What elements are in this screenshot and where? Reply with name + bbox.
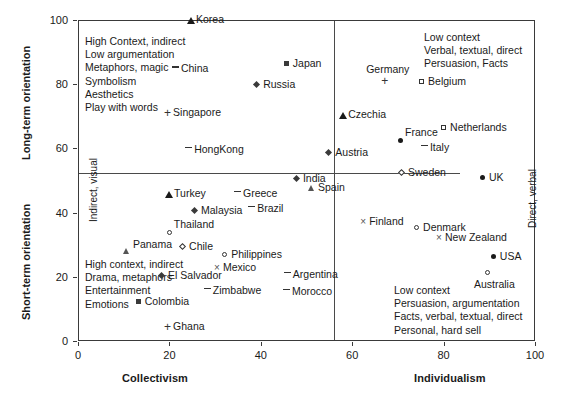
x-tickmark xyxy=(535,342,536,346)
inner-note-direct-verbal: Direct, verbal xyxy=(527,169,538,228)
point-label-chile: Chile xyxy=(189,241,213,252)
point-label-zimbabwe: Zimbabwe xyxy=(213,285,261,296)
y-tick-label: 80 xyxy=(42,78,68,90)
point-label-austria: Austria xyxy=(335,147,368,158)
point-label-turkey: Turkey xyxy=(174,188,206,199)
marker-netherlands xyxy=(441,125,446,130)
point-label-finland: Finland xyxy=(369,216,403,227)
x-tick-label: 0 xyxy=(63,349,93,361)
x-tickmark xyxy=(444,342,445,346)
note-line: Low context xyxy=(424,31,522,44)
point-label-belgium: Belgium xyxy=(428,76,466,87)
point-label-australia: Australia xyxy=(474,279,515,290)
point-label-czechia: Czechia xyxy=(348,109,386,120)
point-label-singapore: Singapore xyxy=(173,107,221,118)
y-axis-title-bottom: Short-term orientation xyxy=(20,204,32,320)
x-tickmark xyxy=(78,342,79,346)
marker-morocco xyxy=(283,289,290,290)
point-label-ghana: Ghana xyxy=(173,321,205,332)
marker-australia xyxy=(485,270,490,275)
point-label-brazil: Brazil xyxy=(257,203,283,214)
y-tick-label: 100 xyxy=(42,14,68,26)
marker-greece xyxy=(234,191,241,192)
point-label-china: China xyxy=(181,63,208,74)
x-tickmark xyxy=(352,342,353,346)
marker-japan xyxy=(284,61,289,66)
point-label-colombia: Colombia xyxy=(145,296,189,307)
marker-thailand xyxy=(167,230,172,235)
marker-uk xyxy=(480,175,485,180)
y-tick-label: 60 xyxy=(42,142,68,154)
y-tick-label: 40 xyxy=(42,207,68,219)
point-label-mexico: Mexico xyxy=(223,262,256,273)
point-label-malaysia: Malaysia xyxy=(201,205,242,216)
x-tickmark xyxy=(169,342,170,346)
note-line: Facts, verbal, textual, direct xyxy=(394,310,522,323)
y-tickmark xyxy=(73,277,77,278)
x-tick-label: 40 xyxy=(246,349,276,361)
point-label-russia: Russia xyxy=(263,79,295,90)
marker-brazil xyxy=(248,206,255,207)
marker-finland: × xyxy=(360,219,366,225)
marker-germany: + xyxy=(381,78,388,84)
note-line: Low argumentation xyxy=(85,48,185,61)
note-line: High Context, indirect xyxy=(85,35,185,48)
point-label-argentina: Argentina xyxy=(293,269,338,280)
y-axis-title-top: Long-term orientation xyxy=(20,46,32,160)
x-tick-label: 20 xyxy=(154,349,184,361)
marker-colombia xyxy=(136,299,141,304)
y-tickmark xyxy=(73,213,77,214)
point-label-morocco: Morocco xyxy=(292,286,332,297)
point-label-hongkong: HongKong xyxy=(194,144,244,155)
marker-spain xyxy=(309,185,315,191)
point-label-philippines: Philippines xyxy=(231,249,282,260)
point-label-japan: Japan xyxy=(293,58,322,69)
note-line: Aesthetics xyxy=(85,88,185,101)
note-line: Personal, hard sell xyxy=(394,324,522,337)
x-axis-title-left: Collectivism xyxy=(122,372,188,384)
note-top-right: Low context Verbal, textual, direct Pers… xyxy=(424,31,522,71)
point-label-new-zealand: New Zealand xyxy=(445,232,507,243)
marker-turkey xyxy=(165,191,173,198)
point-label-spain: Spain xyxy=(318,182,345,193)
y-axis-titles: Long-term orientation Short-term orienta… xyxy=(0,0,30,395)
x-tick-label: 80 xyxy=(429,349,459,361)
point-label-el-salvador: El Salvador xyxy=(168,270,222,281)
y-tick-label: 0 xyxy=(42,335,68,347)
point-label-korea: Korea xyxy=(196,14,224,25)
note-top-left: High Context, indirect Low argumentation… xyxy=(85,35,185,114)
note-bottom-right: Low context Persuasion, argumentation Fa… xyxy=(394,284,522,337)
y-tickmark xyxy=(73,341,77,342)
marker-zimbabwe xyxy=(204,288,211,289)
note-line: Metaphors, magic xyxy=(85,61,185,74)
x-tick-label: 100 xyxy=(520,349,550,361)
marker-argentina xyxy=(284,272,291,273)
y-tickmark xyxy=(73,20,77,21)
note-line: Persuasion, Facts xyxy=(424,57,522,70)
point-label-france: France xyxy=(405,127,438,138)
y-tickmark xyxy=(73,84,77,85)
marker-belgium xyxy=(419,79,424,84)
culture-scatter-chart: Long-term orientation Short-term orienta… xyxy=(0,0,570,395)
note-line: Symbolism xyxy=(85,75,185,88)
point-label-usa: USA xyxy=(500,251,522,262)
marker-ghana: + xyxy=(164,324,171,330)
inner-note-indirect-visual: Indirect, visual xyxy=(88,158,99,222)
x-tick-label: 60 xyxy=(337,349,367,361)
marker-czechia xyxy=(339,112,347,119)
marker-italy xyxy=(421,145,428,146)
marker-china xyxy=(172,66,179,67)
y-tick-label: 20 xyxy=(42,271,68,283)
marker-singapore: + xyxy=(164,110,171,116)
point-label-uk: UK xyxy=(489,172,504,183)
x-axis-title-right: Individualism xyxy=(414,372,486,384)
point-label-panama: Panama xyxy=(133,239,172,250)
point-label-germany: Germany xyxy=(366,64,409,75)
point-label-italy: Italy xyxy=(430,142,449,153)
marker-panama xyxy=(124,248,130,254)
point-label-thailand: Thailand xyxy=(174,219,214,230)
data-points: KoreaChinaJapanRussia+GermanyBelgium+Sin… xyxy=(0,0,570,12)
marker-new-zealand: × xyxy=(436,235,442,241)
point-label-sweden: Sweden xyxy=(408,167,446,178)
point-label-netherlands: Netherlands xyxy=(450,122,507,133)
